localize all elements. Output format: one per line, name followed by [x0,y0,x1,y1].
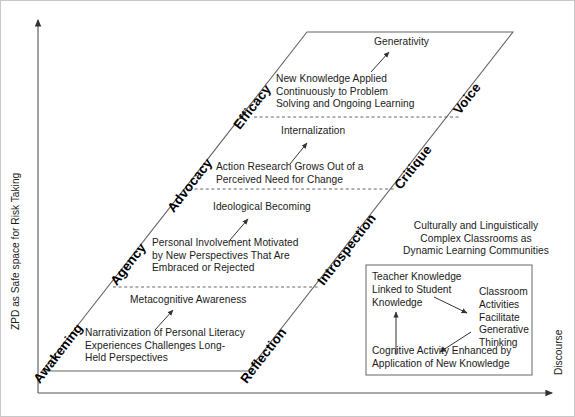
y-axis-label: ZPD as Safe space for Risk Taking [10,173,21,330]
inner-box-classroom-activities: Classroom Activities Facilitate Generati… [479,286,529,350]
inner-box-cognitive-activity: Cognitive Activity Enhanced by Applicati… [372,345,511,371]
band3-body-text: Action Research Grows Out of a Perceived… [216,161,364,186]
band1-outcome-text: Metacognitive Awareness [130,294,247,307]
inner-box-teacher-knowledge: Teacher Knowledge Linked to Student Know… [372,271,461,309]
diagram-canvas: ZPD as Safe space for Risk Taking Discou… [0,0,575,417]
band2-body-text: Personal Involvement Motivated by New Pe… [152,237,298,275]
right-region-heading: Culturally and Linguistically Complex Cl… [383,220,569,258]
arrow-band4 [371,52,389,72]
band4-body-text: New Knowledge Applied Continuously to Pr… [276,73,414,111]
band2-outcome-text: Ideological Becoming [213,201,311,214]
x-axis-label: Discourse [553,330,564,375]
band3-outcome-text: Internalization [281,125,345,138]
band4-outcome-text: Generativity [374,36,429,49]
band1-body-text: Narrativization of Personal Literacy Exp… [85,327,245,365]
